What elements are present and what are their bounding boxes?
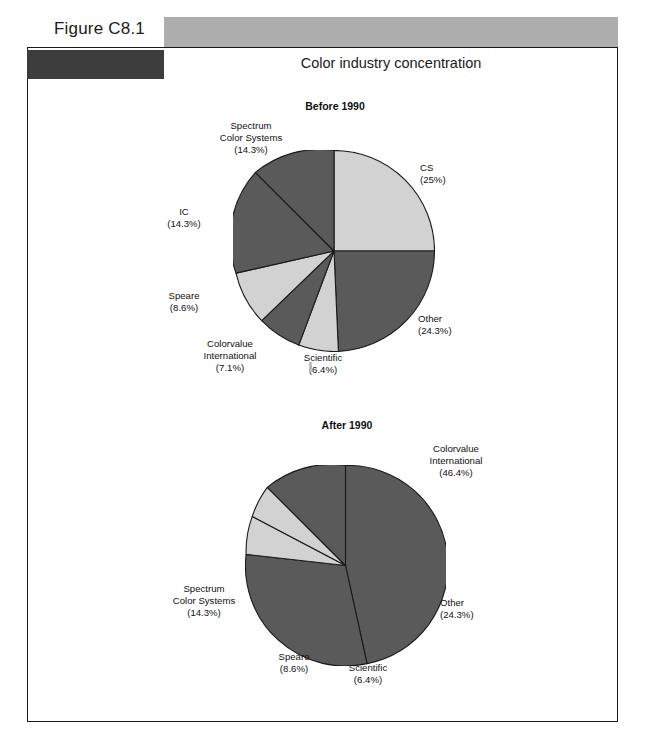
figure-label: Figure C8.1 (54, 19, 174, 39)
figure-label-block (27, 50, 164, 79)
label-line: Colorvalue (186, 338, 274, 350)
label-colorvalue-after: Colorvalue International (46.4%) (406, 443, 506, 480)
label-line: (46.4%) (406, 467, 506, 479)
label-line: Color Systems (196, 132, 306, 144)
chart-title: Color industry concentration (164, 55, 618, 71)
label-line: IC (150, 206, 218, 218)
label-speare-after: Speare (8.6%) (260, 651, 328, 675)
label-line: (8.6%) (150, 302, 218, 314)
pie-chart-after-1990 (245, 465, 446, 666)
label-other-before: Other (24.3%) (418, 313, 492, 337)
label-speare-before: Speare (8.6%) (150, 290, 218, 314)
label-line: Color Systems (146, 595, 262, 607)
label-scientific-before: Scientific (6.4%) (286, 352, 360, 376)
label-other-after: Other (24.3%) (440, 597, 514, 621)
label-line: (24.3%) (418, 325, 492, 337)
label-line: Speare (150, 290, 218, 302)
label-line: Scientific (330, 662, 406, 674)
label-line: CS (420, 162, 486, 174)
label-line: (6.4%) (286, 364, 360, 376)
label-line: (8.6%) (260, 663, 328, 675)
pie-svg-after (245, 465, 446, 666)
label-line: International (406, 455, 506, 467)
panel-title-before: Before 1990 (235, 100, 435, 112)
panel-title-after: After 1990 (247, 419, 447, 431)
figure-page: Figure C8.1 Color industry concentration… (0, 0, 645, 742)
label-cs-before: CS (25%) (420, 162, 486, 186)
label-line: Other (418, 313, 492, 325)
label-colorvalue-before: Colorvalue International (7.1%) (186, 338, 274, 375)
label-line: (6.4%) (330, 674, 406, 686)
label-line: Other (440, 597, 514, 609)
label-line: Scientific (286, 352, 360, 364)
label-line: (25%) (420, 174, 486, 186)
pie-svg-before (233, 150, 435, 352)
header-band (164, 17, 618, 47)
label-line: Speare (260, 651, 328, 663)
label-line: (24.3%) (440, 609, 514, 621)
label-line: International (186, 350, 274, 362)
label-ic-before: IC (14.3%) (150, 206, 218, 230)
label-line: Spectrum (196, 120, 306, 132)
label-line: Spectrum (146, 583, 262, 595)
label-line: (14.3%) (196, 144, 306, 156)
label-line: Colorvalue (406, 443, 506, 455)
label-line: (7.1%) (186, 362, 274, 374)
pie-chart-before-1990 (233, 150, 435, 352)
label-spectrum-before: Spectrum Color Systems (14.3%) (196, 120, 306, 157)
label-spectrum-after: Spectrum Color Systems (14.3%) (146, 583, 262, 620)
label-scientific-after: Scientific (6.4%) (330, 662, 406, 686)
label-line: (14.3%) (146, 607, 262, 619)
label-line: (14.3%) (150, 218, 218, 230)
scan-artifact (309, 362, 312, 372)
